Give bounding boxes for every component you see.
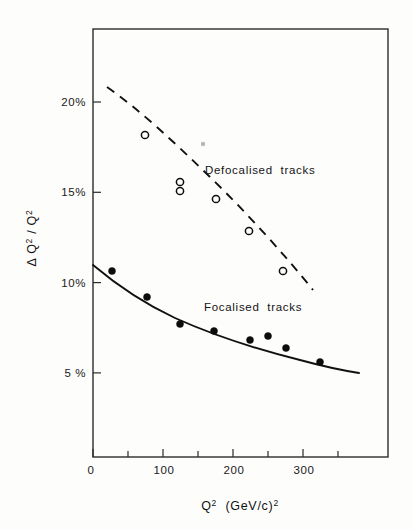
y-tick-label-10: 10%: [61, 277, 86, 289]
data-point-filled: [144, 294, 151, 301]
x-axis-title: Q2 (GeV/c)2: [201, 498, 279, 514]
data-point-open: [279, 267, 286, 274]
data-point-filled: [247, 337, 254, 344]
data-point-filled: [211, 328, 218, 335]
x-tick-label-300: 300: [294, 464, 315, 476]
focalised-data-points: [109, 268, 324, 366]
x-axis-ticks: [93, 449, 338, 457]
y-tick-label-20: 20%: [61, 96, 86, 108]
data-point-filled: [265, 333, 272, 340]
x-tick-label-0: 0: [88, 464, 95, 476]
y-axis-title-mid: / Q: [25, 215, 39, 234]
scatter-plot-canvas: 20% 15% 10% 5 % 0 100 200 300 Δ Q2 / Q2: [0, 0, 413, 530]
data-point-open: [212, 195, 219, 202]
defocalised-data-points: [141, 131, 286, 274]
data-point-filled: [283, 345, 290, 352]
svg-text:Δ Q2 / Q2: Δ Q2 / Q2: [24, 210, 40, 267]
data-point-filled: [317, 359, 324, 366]
scan-speck: [201, 142, 205, 146]
y-tick-label-15: 15%: [61, 186, 86, 198]
x-axis-title-mid: (GeV/c): [225, 499, 273, 513]
data-point-open: [176, 178, 183, 185]
y-axis-title-main: Δ Q: [25, 243, 39, 266]
data-point-open: [176, 187, 183, 194]
data-point-filled: [177, 321, 184, 328]
series-label-focalised: Focalised tracks: [204, 301, 302, 313]
x-tick-label-100: 100: [154, 464, 175, 476]
plot-frame: [93, 29, 388, 457]
data-point-open: [245, 227, 252, 234]
data-point-filled: [109, 268, 116, 275]
data-point-open: [141, 131, 148, 138]
series-label-defocalised: Defocalised tracks: [205, 164, 315, 176]
figure-container: 20% 15% 10% 5 % 0 100 200 300 Δ Q2 / Q2: [0, 0, 413, 530]
x-axis-title-main: Q: [201, 499, 211, 513]
y-axis-title: Δ Q2 / Q2: [24, 210, 40, 267]
x-tick-label-200: 200: [224, 464, 245, 476]
focalised-fit-curve: [93, 265, 359, 373]
defocalised-fit-curve: [107, 87, 313, 290]
x-axis-title-sup2: 2: [273, 498, 278, 508]
y-axis-title-sup2: 2: [24, 210, 34, 215]
y-axis-ticks: [93, 102, 101, 373]
y-tick-label-5: 5 %: [64, 367, 86, 379]
